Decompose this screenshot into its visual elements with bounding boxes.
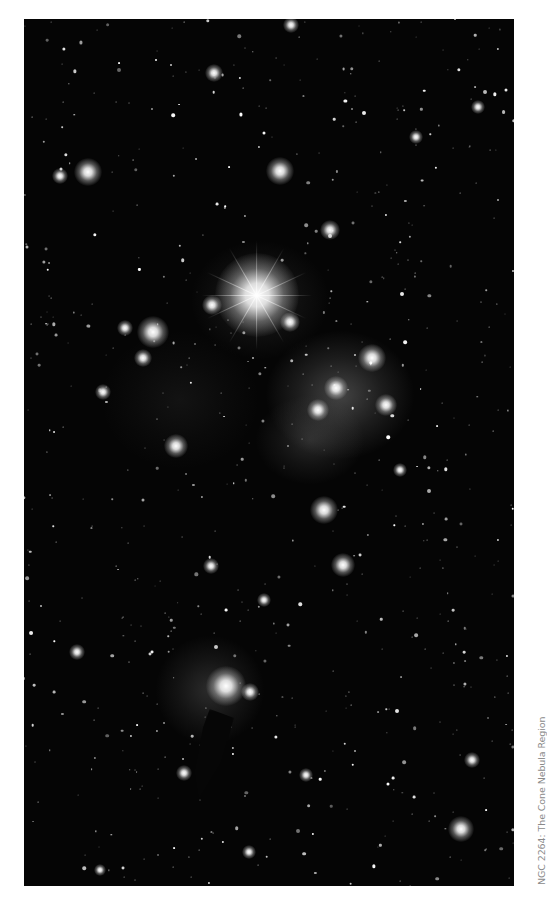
faint-star xyxy=(412,637,413,638)
faint-star xyxy=(408,420,409,421)
faint-star xyxy=(144,859,145,860)
faint-star xyxy=(172,341,175,344)
faint-star xyxy=(386,184,387,185)
faint-star xyxy=(387,782,390,785)
faint-star xyxy=(465,454,466,455)
faint-star xyxy=(403,110,405,112)
faint-star xyxy=(233,654,236,657)
faint-star xyxy=(138,268,140,270)
faint-star xyxy=(356,366,357,367)
faint-star xyxy=(172,867,173,868)
faint-star xyxy=(219,412,220,413)
faint-star xyxy=(491,593,492,594)
faint-star xyxy=(400,292,404,296)
bright-star xyxy=(117,320,133,336)
faint-star xyxy=(512,730,513,731)
faint-star xyxy=(354,354,356,356)
faint-star xyxy=(431,667,432,668)
faint-star xyxy=(238,35,241,38)
faint-star xyxy=(305,346,306,347)
faint-star xyxy=(192,484,194,486)
faint-star xyxy=(241,458,244,461)
faint-star xyxy=(474,86,476,88)
faint-star xyxy=(172,28,173,29)
faint-star xyxy=(252,357,254,359)
cone-nebula-dark-shape xyxy=(190,709,234,799)
faint-star xyxy=(507,832,508,833)
faint-star xyxy=(155,59,157,61)
faint-star xyxy=(95,831,96,832)
faint-star xyxy=(402,105,403,106)
faint-star xyxy=(156,730,158,732)
faint-star xyxy=(123,616,124,617)
faint-star xyxy=(338,509,339,510)
bright-star xyxy=(375,394,397,416)
faint-star xyxy=(233,482,235,484)
faint-star xyxy=(223,416,225,418)
faint-star xyxy=(121,729,124,732)
faint-star xyxy=(420,108,422,110)
bright-star xyxy=(324,376,348,400)
faint-star xyxy=(293,540,294,541)
bright-star xyxy=(393,463,407,477)
faint-star xyxy=(52,691,55,694)
faint-star xyxy=(369,280,372,283)
faint-star xyxy=(485,809,487,811)
faint-star xyxy=(251,727,252,728)
faint-star xyxy=(252,51,253,52)
faint-star xyxy=(233,64,234,65)
faint-star xyxy=(25,576,29,580)
faint-star xyxy=(506,655,508,657)
faint-star xyxy=(452,734,453,735)
faint-star xyxy=(246,425,247,426)
faint-star xyxy=(457,547,458,548)
faint-star xyxy=(200,838,202,840)
faint-star xyxy=(505,724,507,726)
faint-star xyxy=(429,820,430,821)
faint-star xyxy=(475,556,476,557)
faint-star xyxy=(144,447,145,448)
faint-star xyxy=(266,108,267,109)
faint-star xyxy=(372,865,375,868)
faint-star xyxy=(507,410,508,411)
faint-star xyxy=(110,834,111,835)
faint-star xyxy=(444,539,447,542)
faint-star xyxy=(323,450,324,451)
faint-star xyxy=(61,713,63,715)
faint-star xyxy=(105,401,107,403)
bright-star xyxy=(471,100,485,114)
faint-star xyxy=(396,252,398,254)
faint-star xyxy=(299,603,302,606)
faint-star xyxy=(336,320,337,321)
faint-star xyxy=(173,677,175,679)
faint-star xyxy=(343,506,346,509)
faint-star xyxy=(443,567,444,568)
faint-star xyxy=(494,696,495,697)
faint-star xyxy=(379,61,380,62)
faint-star xyxy=(379,844,381,846)
faint-star xyxy=(28,600,29,601)
faint-star xyxy=(67,343,68,344)
faint-star xyxy=(500,847,504,851)
faint-star xyxy=(459,523,462,526)
faint-star xyxy=(26,245,29,248)
faint-star xyxy=(442,49,443,50)
faint-star xyxy=(447,70,448,71)
faint-star xyxy=(455,644,456,645)
faint-star xyxy=(178,245,180,247)
bright-star xyxy=(464,752,480,768)
faint-star xyxy=(410,577,411,578)
faint-star xyxy=(444,467,447,470)
bright-star xyxy=(134,349,152,367)
faint-star xyxy=(135,769,136,770)
faint-star xyxy=(402,792,403,793)
faint-star xyxy=(186,279,187,280)
faint-star xyxy=(342,125,344,127)
faint-star xyxy=(155,586,156,587)
faint-star xyxy=(49,296,50,297)
faint-star xyxy=(33,821,35,823)
faint-star xyxy=(173,626,175,628)
faint-star xyxy=(511,828,514,831)
faint-star xyxy=(137,578,138,579)
faint-star xyxy=(81,598,82,599)
